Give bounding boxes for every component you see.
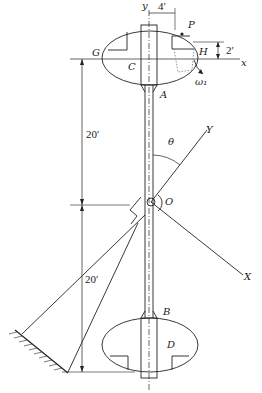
label-omega: ω₁ [195, 76, 207, 87]
label-O: O [165, 196, 173, 207]
label-X: X [243, 271, 252, 282]
label-B: B [162, 306, 170, 317]
Y-axis [151, 130, 207, 202]
lower-disc [102, 318, 198, 372]
dim-20-upper: 20′ [86, 128, 99, 140]
dim-2: 2′ [226, 44, 234, 56]
label-Y: Y [206, 124, 214, 135]
label-x: x [241, 57, 247, 68]
label-H: H [198, 46, 208, 57]
label-D: D [166, 339, 175, 350]
dim-20-lower: 20′ [85, 273, 98, 285]
label-C: C [128, 61, 136, 72]
upper-disc [102, 31, 198, 85]
label-theta: θ [168, 136, 174, 147]
label-A: A [159, 89, 167, 100]
dim-4: 4′ [158, 0, 166, 12]
X-axis [151, 202, 243, 275]
mechanism-diagram: y 4′ P G C H 2′ x A ω₁ 20′ θ Y O X 20′ B… [0, 0, 262, 393]
label-G: G [92, 47, 100, 58]
label-y: y [141, 0, 148, 11]
label-P: P [187, 19, 195, 30]
